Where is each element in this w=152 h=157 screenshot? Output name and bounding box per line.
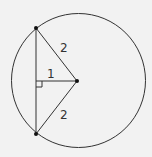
circle-chord-diagram: 2 1 2 bbox=[0, 0, 152, 157]
label-radius-bottom: 2 bbox=[60, 108, 68, 122]
chord-top-point bbox=[34, 26, 38, 30]
center-point bbox=[75, 79, 79, 83]
radius-bottom bbox=[36, 81, 77, 134]
chord-bottom-point bbox=[34, 132, 38, 136]
label-perpendicular: 1 bbox=[47, 67, 55, 81]
radius-top bbox=[36, 28, 77, 81]
right-angle-marker bbox=[36, 81, 42, 87]
label-radius-top: 2 bbox=[60, 41, 68, 55]
